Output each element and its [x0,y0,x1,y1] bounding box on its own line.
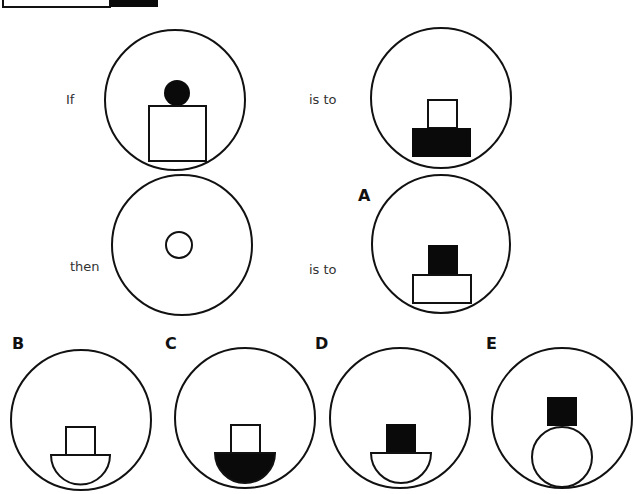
option-c-figure[interactable] [175,348,315,488]
label-if: If [66,92,74,107]
option-e-figure[interactable] [492,348,632,488]
label-is-to-2: is to [309,262,337,277]
option-d-figure[interactable] [330,348,470,488]
white-dot-icon [166,232,192,258]
option-b-label[interactable]: B [12,334,24,353]
label-is-to-1: is to [309,92,337,107]
figure-is-to-1 [371,28,511,168]
black-dot-icon [164,80,190,106]
option-d-label[interactable]: D [315,334,328,353]
top-bar-fragment [3,0,158,7]
option-c-label[interactable]: C [165,334,177,353]
option-e-label[interactable]: E [486,334,497,353]
label-then: then [70,259,100,274]
figure-then [112,175,252,315]
option-a-label[interactable]: A [358,186,370,205]
option-b-figure[interactable] [11,350,151,490]
analogy-diagram [0,0,635,494]
figure-if [105,30,245,170]
option-a-figure[interactable] [372,175,510,313]
